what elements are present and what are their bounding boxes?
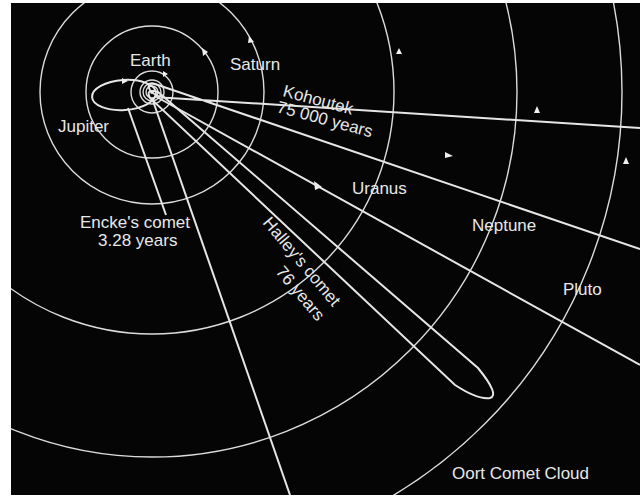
oort-cloud-label: Oort Comet Cloud [452,464,589,483]
uranus-orbit [11,3,394,334]
pluto-arrow-icon [623,157,629,164]
saturn-label: Saturn [230,55,280,74]
orbit-diagram-svg: Earth Jupiter Saturn Uranus Neptune Plut… [11,3,640,495]
pluto-label: Pluto [563,280,602,299]
solar-system-diagram: Earth Jupiter Saturn Uranus Neptune Plut… [11,3,640,495]
encke-period-label: 3.28 years [98,231,177,250]
neptune-label: Neptune [472,216,536,235]
neptune-arrow-icon [534,106,540,113]
encke-orbit [91,78,166,215]
kohoutek-arrow-icon [445,152,453,158]
uranus-label: Uranus [352,179,407,198]
uranus-arrow-icon [396,48,402,54]
earth-label: Earth [130,51,171,70]
jupiter-label: Jupiter [58,117,109,136]
encke-label: Encke's comet [80,213,190,232]
saturn-arrow-icon [248,36,254,43]
